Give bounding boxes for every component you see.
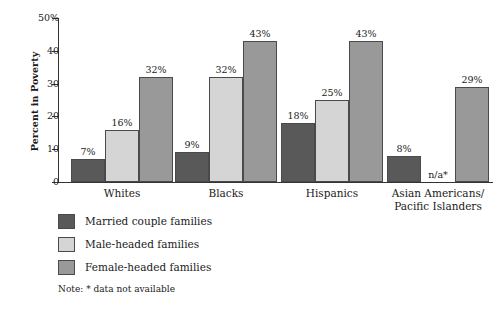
legend-swatch bbox=[58, 260, 75, 275]
x-axis-group-label-line: Pacific Islanders bbox=[378, 200, 497, 213]
x-axis-group-label: Blacks bbox=[166, 187, 286, 200]
x-axis-group-label: Asian Americans/Pacific Islanders bbox=[378, 187, 497, 212]
legend-label: Female-headed families bbox=[85, 259, 211, 275]
poverty-bar-chart: Percent in Poverty 50%403020100 7%16%32%… bbox=[0, 0, 497, 311]
legend-swatch bbox=[58, 237, 75, 252]
bar bbox=[105, 130, 139, 182]
bar-value-label: 8% bbox=[381, 144, 427, 154]
bar bbox=[71, 159, 105, 182]
bar bbox=[139, 77, 173, 182]
bar bbox=[455, 87, 489, 182]
legend-label: Male-headed families bbox=[85, 236, 199, 252]
bar bbox=[281, 123, 315, 182]
x-axis-group-label-line: Hispanics bbox=[272, 187, 392, 200]
legend-swatch bbox=[58, 214, 75, 229]
x-axis-group-label-line: Blacks bbox=[166, 187, 286, 200]
x-axis-group-label: Whites bbox=[62, 187, 182, 200]
bar-value-label: 29% bbox=[449, 75, 495, 85]
chart-note: Note: * data not available bbox=[58, 284, 175, 295]
x-axis-group-label-line: Asian Americans/ bbox=[378, 187, 497, 200]
bar bbox=[315, 100, 349, 182]
bar-value-label: 32% bbox=[133, 65, 179, 75]
bar bbox=[209, 77, 243, 182]
x-axis-group-label: Hispanics bbox=[272, 187, 392, 200]
bar-value-label: 43% bbox=[237, 29, 283, 39]
legend-label: Married couple families bbox=[85, 213, 212, 229]
bar bbox=[349, 41, 383, 182]
bar bbox=[243, 41, 277, 182]
bar-value-label: 43% bbox=[343, 29, 389, 39]
bar bbox=[175, 152, 209, 182]
x-axis-group-label-line: Whites bbox=[62, 187, 182, 200]
